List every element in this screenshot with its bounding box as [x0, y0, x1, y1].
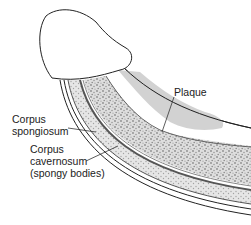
anatomy-diagram: Plaque Corpus spongiosum Corpus cavernos… [0, 0, 251, 225]
spongiosum-line1: Corpus [12, 113, 69, 125]
plaque-label-text: Plaque [174, 86, 207, 98]
corpus-cavernosum-label: Corpus cavernosum (spongy bodies) [30, 143, 105, 179]
plaque-label: Plaque [174, 86, 207, 98]
cavernosum-line1: Corpus [30, 143, 105, 155]
glans [40, 10, 132, 80]
spongiosum-line2: spongiosum [12, 125, 69, 137]
cavernosum-line2: cavernosum [30, 155, 105, 167]
corpus-spongiosum-label: Corpus spongiosum [12, 113, 69, 137]
cavernosum-line3: (spongy bodies) [30, 167, 105, 179]
